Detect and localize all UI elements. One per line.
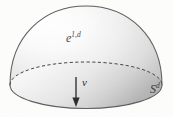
label-normal-nu: ν bbox=[82, 77, 87, 88]
label-sphere-s: Sd bbox=[150, 83, 160, 95]
figure-container: e1,d ν Sd bbox=[0, 0, 173, 117]
hemisphere-diagram bbox=[0, 0, 173, 117]
label-s-exponent: d bbox=[156, 81, 160, 90]
label-embedding-e: e1,d bbox=[66, 32, 81, 44]
label-e-exponent: 1,d bbox=[71, 30, 80, 39]
dome-body bbox=[6, 0, 173, 117]
